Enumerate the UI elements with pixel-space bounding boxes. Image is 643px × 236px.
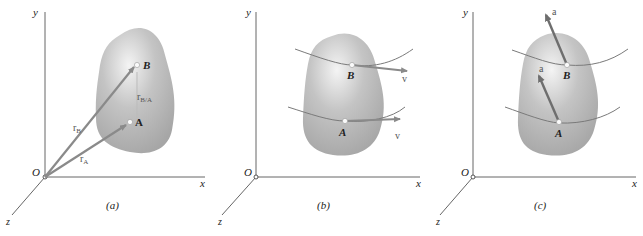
point-A [556,119,561,124]
y-axis-label: y [462,6,468,18]
point-B [564,62,569,67]
panel-b: y x z O B A v v (b) [217,6,421,227]
origin-point [471,175,475,179]
point-A-label: A [554,127,562,139]
x-axis-label: x [199,177,205,189]
x-axis-label: x [415,177,421,189]
z-axis [12,177,45,215]
z-axis-label: z [5,216,10,227]
point-B [349,62,354,67]
caption-b: (b) [317,199,330,212]
y-axis-label: y [245,6,251,18]
point-B-label: B [562,69,570,81]
rigid-body [96,28,175,153]
point-B-label: B [346,69,354,81]
point-B-label: B [142,59,150,71]
origin-label: O [244,166,252,178]
z-axis-label: z [217,216,222,227]
z-axis [440,177,473,215]
aB-label: a [552,6,557,17]
vB-label: v [402,73,407,84]
point-A-label: A [338,126,346,138]
rigid-body-figure: y x z O B A rB rA rB/A (a) y x z O B A v… [0,0,643,236]
point-A [342,118,347,123]
origin-point [254,175,258,179]
z-axis-label: z [435,216,440,227]
point-B [134,62,139,67]
z-axis [222,177,256,215]
rA-label: rA [80,153,88,166]
rB-label: rB [73,122,81,135]
caption-a: (a) [106,199,119,212]
vector-rA [45,125,126,177]
y-axis-label: y [32,6,38,18]
panel-a: y x z O B A rB rA rB/A (a) [5,6,205,227]
x-axis-label: x [631,177,637,189]
point-A-label: A [135,116,143,128]
origin-label: O [461,166,469,178]
origin-label: O [32,166,40,178]
point-A [127,119,132,124]
panel-c: y x z O B A a a (c) [435,6,637,227]
vA-label: v [395,130,400,141]
aA-label: a [539,63,544,74]
caption-c: (c) [534,199,547,212]
